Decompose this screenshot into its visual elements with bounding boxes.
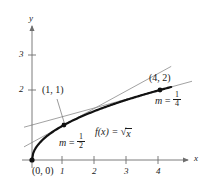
point-label-4-2: (4, 2): [149, 73, 171, 83]
slope-m-symbol-1: m: [59, 138, 66, 148]
slope-fraction-one-half: 1 2: [77, 133, 85, 151]
slope-denominator-1: 2: [77, 141, 85, 150]
y-axis-label: y: [29, 14, 33, 23]
x-axis-label: x: [194, 154, 198, 163]
slope-label-one-fourth: m = 1 4: [155, 92, 181, 110]
slope-label-one-half: m = 1 2: [59, 134, 85, 152]
slope-numerator-2: 1: [173, 91, 181, 99]
point-origin-marker: [29, 157, 34, 162]
point-label-origin: (0, 0): [32, 166, 54, 176]
square-root-tangent-figure: y x 2 3 1 2 3 4 (0, 0) (1, 1) (4, 2) m =…: [0, 0, 206, 190]
point-1-1-marker: [62, 123, 67, 128]
slope-m-symbol-2: m: [155, 96, 162, 106]
slope-equals-2: =: [164, 96, 171, 106]
x-tick-label-4: 4: [156, 167, 161, 176]
point-label-1-1: (1, 1): [42, 85, 64, 95]
x-tick-label-2: 2: [92, 167, 97, 176]
y-tick-label-2: 2: [19, 85, 24, 94]
sqrt-expression: √ x: [121, 127, 132, 139]
slope-denominator-2: 4: [173, 99, 181, 108]
slope-fraction-one-fourth: 1 4: [173, 91, 181, 109]
slope-numerator-1: 1: [77, 133, 85, 141]
x-tick-label-1: 1: [60, 167, 65, 176]
radicand-x: x: [125, 128, 131, 139]
slope-equals-1: =: [68, 138, 75, 148]
function-equals: =: [111, 126, 118, 137]
x-tick-label-3: 3: [124, 167, 129, 176]
y-tick-label-3: 3: [19, 50, 24, 59]
leader-line-point-1-1: [57, 99, 64, 122]
sqrt-curve-plot: [32, 87, 171, 160]
function-label: f(x) = √ x: [95, 127, 132, 139]
function-name-fx: f(x): [95, 126, 109, 137]
